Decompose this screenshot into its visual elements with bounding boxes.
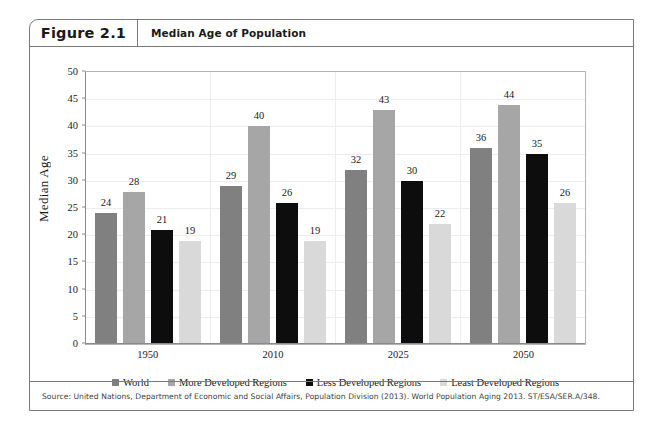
y-axis-title: Median Age xyxy=(36,109,54,269)
bar-slot: 26 xyxy=(276,72,298,344)
bar-value-label: 21 xyxy=(157,214,168,225)
bar-slot: 40 xyxy=(248,72,270,344)
bar-slot: 29 xyxy=(220,72,242,344)
y-axis-tick-label: 25 xyxy=(68,202,79,213)
bar[interactable]: 29 xyxy=(220,186,242,344)
bar-value-label: 35 xyxy=(532,138,543,149)
bar-slot: 28 xyxy=(123,72,145,344)
bar[interactable]: 24 xyxy=(95,213,117,344)
bar-slot: 19 xyxy=(179,72,201,344)
bar[interactable]: 40 xyxy=(248,126,270,344)
y-axis-tick-label: 45 xyxy=(68,93,79,104)
bar[interactable]: 21 xyxy=(151,230,173,344)
bar[interactable]: 32 xyxy=(345,170,367,344)
figure-frame: Figure 2.1 Median Age of Population Medi… xyxy=(29,19,634,411)
bar-slot: 32 xyxy=(345,72,367,344)
plot-area: 24282119294026193243302236443526 xyxy=(85,71,586,345)
bar[interactable]: 19 xyxy=(179,241,201,344)
bar-value-label: 36 xyxy=(476,132,487,143)
source-footer: Source: United Nations, Department of Ec… xyxy=(30,381,633,410)
y-axis-tick-label: 5 xyxy=(73,310,78,321)
bar-slot: 35 xyxy=(526,72,548,344)
bar-slot: 21 xyxy=(151,72,173,344)
figure-header: Figure 2.1 Median Age of Population xyxy=(30,20,633,47)
bar-value-label: 29 xyxy=(226,170,237,181)
bar-value-label: 44 xyxy=(504,89,515,100)
bar[interactable]: 22 xyxy=(429,224,451,344)
bar-value-label: 26 xyxy=(560,187,571,198)
y-axis-tick-label: 10 xyxy=(68,283,79,294)
bar-slot: 22 xyxy=(429,72,451,344)
bar[interactable]: 26 xyxy=(276,203,298,344)
bar-value-label: 32 xyxy=(351,154,362,165)
bar-value-label: 40 xyxy=(254,110,265,121)
y-axis-tick-label: 50 xyxy=(68,66,79,77)
y-axis-tick-label: 40 xyxy=(68,120,79,131)
bar-value-label: 19 xyxy=(310,225,321,236)
x-axis-line xyxy=(86,343,585,344)
y-axis-tick-label: 20 xyxy=(68,229,79,240)
bar[interactable]: 28 xyxy=(123,192,145,344)
bar-groups: 24282119294026193243302236443526 xyxy=(86,72,585,344)
bar-value-label: 28 xyxy=(129,176,140,187)
bar[interactable]: 44 xyxy=(498,105,520,344)
bar-value-label: 19 xyxy=(185,225,196,236)
bar-group-1950: 24282119 xyxy=(86,72,211,344)
y-axis-tick-label: 35 xyxy=(68,147,79,158)
figure-number: Figure 2.1 xyxy=(30,20,138,46)
x-axis-tick-label: 2050 xyxy=(461,349,586,360)
y-axis-tick-label: 0 xyxy=(73,338,78,349)
y-axis-tick-label: 15 xyxy=(68,256,79,267)
bar[interactable]: 30 xyxy=(401,181,423,344)
x-axis-tick-labels: 1950201020252050 xyxy=(85,349,586,360)
bar-slot: 43 xyxy=(373,72,395,344)
bar[interactable]: 35 xyxy=(526,154,548,344)
source-text: Source: United Nations, Department of Ec… xyxy=(42,392,600,401)
bar[interactable]: 26 xyxy=(554,203,576,344)
bar-value-label: 22 xyxy=(435,208,446,219)
x-axis-tick-label: 2010 xyxy=(210,349,335,360)
bar[interactable]: 36 xyxy=(470,148,492,344)
bar-group-2050: 36443526 xyxy=(461,72,585,344)
bar-value-label: 26 xyxy=(282,187,293,198)
bar[interactable]: 43 xyxy=(373,110,395,344)
x-axis-tick-label: 2025 xyxy=(336,349,461,360)
bar-slot: 19 xyxy=(304,72,326,344)
bar-value-label: 24 xyxy=(101,197,112,208)
bar-slot: 26 xyxy=(554,72,576,344)
x-axis-tick-label: 1950 xyxy=(85,349,210,360)
bar-slot: 36 xyxy=(470,72,492,344)
figure-title: Median Age of Population xyxy=(138,20,633,46)
y-axis-tick-labels: 05101520253035404550 xyxy=(56,71,82,345)
bar-slot: 24 xyxy=(95,72,117,344)
bar-group-2010: 29402619 xyxy=(211,72,336,344)
bar-group-2025: 32433022 xyxy=(336,72,461,344)
bar-value-label: 30 xyxy=(407,165,418,176)
bar-slot: 30 xyxy=(401,72,423,344)
bar-slot: 44 xyxy=(498,72,520,344)
bar-value-label: 43 xyxy=(379,94,390,105)
y-axis-tick-label: 30 xyxy=(68,174,79,185)
chart-container: Median Age 05101520253035404550 24282119… xyxy=(30,47,633,381)
bar[interactable]: 19 xyxy=(304,241,326,344)
